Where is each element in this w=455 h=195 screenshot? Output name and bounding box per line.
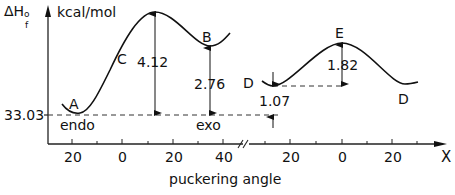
baseline-value: 33.03 (4, 108, 44, 122)
x-tick-right-2: 20 (384, 150, 402, 164)
x-tick-right-1: 0 (338, 150, 347, 164)
point-c-label: C (117, 52, 127, 66)
y-axis-sub: f (25, 21, 28, 30)
point-d-left-label: D (243, 76, 254, 90)
y-axis (44, 5, 51, 144)
x-axis-end-label: X (441, 150, 451, 165)
x-tick-left-1: 0 (118, 150, 127, 164)
x-tick-right-0: 20 (282, 150, 300, 164)
x-axis (48, 139, 447, 148)
point-a-label: A (69, 97, 79, 111)
x-tick-left-0: 20 (64, 150, 82, 164)
value-2-76: 2.76 (194, 77, 225, 91)
delta-h-symbol: ΔH (4, 3, 24, 19)
point-e-label: E (335, 26, 344, 40)
exo-label: exo (196, 118, 221, 132)
value-1-82: 1.82 (327, 58, 358, 72)
x-tick-left-2: 20 (165, 150, 183, 164)
y-axis-arrow-icon (45, 5, 51, 17)
x-axis-arrow-icon (434, 141, 447, 147)
endo-label: endo (60, 118, 95, 132)
y-axis-title: ΔHof (4, 4, 31, 18)
y-axis-sup: o (24, 10, 30, 19)
x-axis-title: puckering angle (169, 172, 281, 186)
y-axis-unit: kcal/mol (57, 5, 116, 19)
x-tick-left-3: 40 (215, 150, 233, 164)
point-b-label: B (202, 30, 212, 44)
value-4-12: 4.12 (137, 55, 168, 69)
value-1-07: 1.07 (259, 94, 290, 108)
point-d-right-label: D (398, 92, 409, 106)
